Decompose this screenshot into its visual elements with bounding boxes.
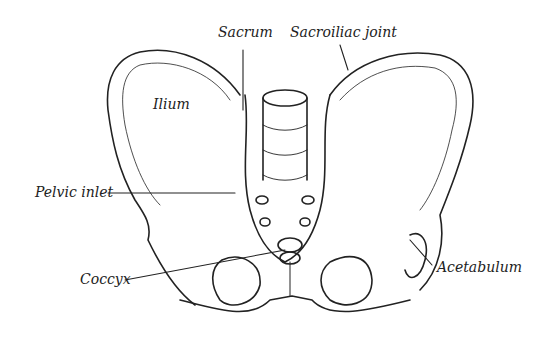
right-obturator-foramen <box>321 257 372 305</box>
vertebra-body <box>263 98 307 180</box>
label-sacrum: Sacrum <box>218 24 273 40</box>
vertebra-rings <box>263 125 307 180</box>
sacral-foramen <box>256 196 268 204</box>
pelvis-illustration <box>0 0 543 358</box>
coccyx-segment <box>278 238 302 252</box>
label-ilium: Ilium <box>153 96 190 112</box>
label-coccyx: Coccyx <box>80 271 131 287</box>
vertebra-top <box>263 90 307 106</box>
sacral-foramen <box>302 196 314 204</box>
sacral-foramen <box>300 218 310 226</box>
sacral-foramen <box>260 218 270 226</box>
left-obturator-foramen <box>213 257 260 305</box>
leader-sacroiliac <box>340 45 348 70</box>
label-pelvic-inlet: Pelvic inlet <box>35 184 113 200</box>
pelvis-diagram: Sacrum Sacroiliac joint Ilium Pelvic inl… <box>0 0 543 358</box>
sacrum <box>245 95 330 262</box>
leader-acetabulum <box>410 240 432 265</box>
left-ilium-inner <box>123 63 230 205</box>
leader-coccyx <box>125 250 285 280</box>
right-ilium-inner <box>340 66 456 210</box>
pubic-arch <box>180 296 410 312</box>
label-acetabulum: Acetabulum <box>437 259 522 275</box>
label-sacroiliac-joint: Sacroiliac joint <box>290 24 397 40</box>
